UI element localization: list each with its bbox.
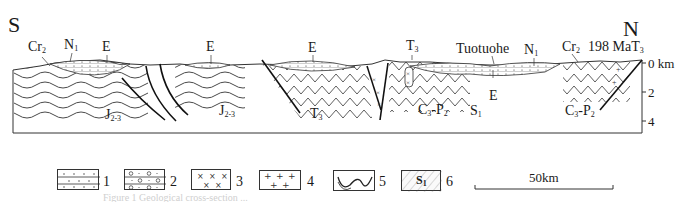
plus-pattern-icon: +++++ bbox=[259, 170, 301, 190]
direction-north-label: N bbox=[623, 18, 639, 40]
svg-text:+: + bbox=[282, 180, 290, 190]
legend-num-2: 2 bbox=[170, 175, 177, 189]
svg-text:+: + bbox=[616, 65, 621, 74]
label-tuotuohe: Tuotuohe bbox=[456, 42, 509, 56]
scale-bar-line bbox=[475, 185, 613, 189]
legend-num-1: 1 bbox=[103, 175, 110, 189]
label-e-2: E bbox=[206, 40, 215, 54]
conglomerate-icon bbox=[124, 169, 165, 190]
legend-num-5: 5 bbox=[379, 175, 386, 189]
hatched-s1-icon: S1 bbox=[401, 170, 441, 191]
svg-text:×: × bbox=[406, 70, 410, 78]
label-j23-mid: J2-3 bbox=[219, 104, 235, 122]
svg-text:×: × bbox=[209, 172, 216, 181]
svg-text:+: + bbox=[270, 180, 278, 190]
label-n1-right: N1 bbox=[524, 43, 538, 61]
label-e-1: E bbox=[102, 40, 111, 54]
figure-caption: Figure 1 Geological cross-section ... bbox=[103, 192, 248, 202]
cross-pattern-icon: ××××× bbox=[191, 169, 231, 190]
legend-num-4: 4 bbox=[307, 175, 314, 189]
direction-south-label: S bbox=[8, 14, 20, 36]
svg-text:×: × bbox=[376, 89, 380, 97]
label-j23-left: J2-3 bbox=[105, 108, 121, 126]
dotted-layers-icon bbox=[57, 169, 99, 190]
label-age-198ma: 198 MaT3 bbox=[588, 40, 644, 58]
label-e-3: E bbox=[308, 41, 317, 55]
legend-num-3: 3 bbox=[236, 175, 243, 189]
label-c3p2-right: C3-P2 bbox=[565, 104, 595, 122]
svg-text:×: × bbox=[215, 181, 222, 190]
depth-ticks bbox=[642, 63, 646, 121]
depth-tick-0: 0 km bbox=[648, 57, 674, 70]
scale-bar-label: 50km bbox=[529, 171, 559, 184]
legend-num-6: 6 bbox=[446, 175, 453, 189]
depth-tick-4: 4 bbox=[648, 115, 655, 128]
cr2-fold-zone-right: + + bbox=[563, 60, 642, 110]
legend-6-inner-label: S1 bbox=[416, 173, 427, 191]
svg-text:×: × bbox=[377, 101, 381, 109]
fold-icon bbox=[333, 170, 375, 191]
label-s1: S1 bbox=[470, 104, 482, 122]
label-cr2-right: Cr2 bbox=[562, 40, 580, 58]
svg-text:×: × bbox=[221, 172, 228, 181]
label-e-lower: E bbox=[489, 89, 498, 103]
svg-text:+: + bbox=[612, 78, 617, 87]
svg-text:×: × bbox=[203, 181, 210, 190]
label-cr2-left: Cr2 bbox=[28, 40, 46, 58]
svg-text:×: × bbox=[372, 76, 376, 84]
label-t3-mid: T3 bbox=[406, 39, 419, 57]
svg-text:×: × bbox=[197, 172, 204, 181]
label-c3p2-mid: C3-P2 bbox=[418, 103, 448, 121]
label-t3-fold: T3 bbox=[310, 107, 323, 125]
label-n1-left: N1 bbox=[64, 38, 78, 56]
svg-text:×: × bbox=[406, 79, 410, 87]
depth-tick-2: 2 bbox=[648, 86, 655, 99]
